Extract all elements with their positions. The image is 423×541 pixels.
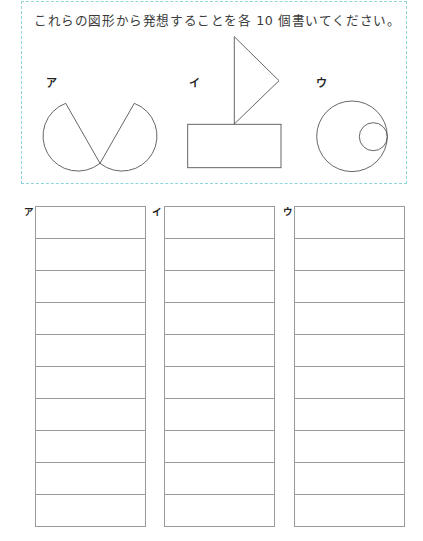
answer-row[interactable] xyxy=(165,335,274,367)
answer-row[interactable] xyxy=(165,271,274,303)
figure-label-i: イ xyxy=(189,78,200,90)
answer-row[interactable] xyxy=(165,463,274,495)
answer-row[interactable] xyxy=(295,495,404,527)
answer-row[interactable] xyxy=(36,495,145,527)
answer-row[interactable] xyxy=(165,431,274,463)
answer-row[interactable] xyxy=(295,431,404,463)
answer-row[interactable] xyxy=(295,207,404,239)
answer-row[interactable] xyxy=(295,463,404,495)
figure-a-shape xyxy=(43,103,157,171)
figure-i-shape xyxy=(188,37,281,168)
answer-row[interactable] xyxy=(295,367,404,399)
answer-row[interactable] xyxy=(295,303,404,335)
answer-row[interactable] xyxy=(165,303,274,335)
answer-row[interactable] xyxy=(36,207,145,239)
answer-row[interactable] xyxy=(36,367,145,399)
answer-row[interactable] xyxy=(295,399,404,431)
answer-row[interactable] xyxy=(36,399,145,431)
answer-row[interactable] xyxy=(36,239,145,271)
answer-row[interactable] xyxy=(165,207,274,239)
answer-row[interactable] xyxy=(36,463,145,495)
answer-row[interactable] xyxy=(165,495,274,527)
answer-row[interactable] xyxy=(36,271,145,303)
answer-row[interactable] xyxy=(36,431,145,463)
answer-column-label-u: ウ xyxy=(283,206,293,217)
answer-column-a xyxy=(35,206,146,527)
answer-column-label-a: ア xyxy=(24,206,34,217)
answer-row[interactable] xyxy=(165,367,274,399)
answer-row[interactable] xyxy=(295,239,404,271)
answer-row[interactable] xyxy=(295,271,404,303)
answer-column-i xyxy=(164,206,275,527)
figure-label-a: ア xyxy=(46,78,57,90)
answer-row[interactable] xyxy=(36,303,145,335)
answer-row[interactable] xyxy=(36,335,145,367)
figure-u-shape xyxy=(317,101,388,172)
answer-row[interactable] xyxy=(165,239,274,271)
answer-row[interactable] xyxy=(295,335,404,367)
answer-row[interactable] xyxy=(165,399,274,431)
figures-illustration xyxy=(0,0,423,190)
answer-column-u xyxy=(294,206,405,527)
figure-label-u: ウ xyxy=(316,78,327,90)
answer-column-label-i: イ xyxy=(152,206,162,217)
